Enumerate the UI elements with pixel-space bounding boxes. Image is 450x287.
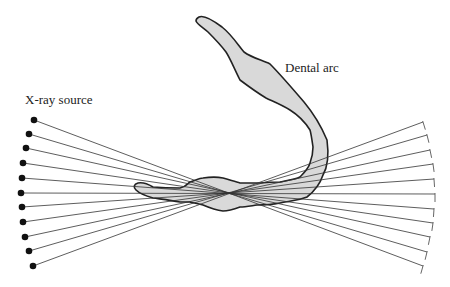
detector-segment <box>428 236 430 245</box>
x-ray-source-dot <box>19 175 26 182</box>
x-ray-source-dot <box>23 145 30 152</box>
x-ray-source-dot <box>22 234 29 241</box>
x-ray-source-dot <box>30 263 37 270</box>
dental-panoramic-diagram: X-ray source Dental arc <box>0 0 450 287</box>
x-ray-source-label: X-ray source <box>25 93 93 106</box>
detector-segment <box>434 178 435 187</box>
detector-segment <box>427 134 429 143</box>
x-ray-source-dot <box>31 117 38 124</box>
detector-segment <box>432 222 433 231</box>
detector-segment <box>423 121 426 130</box>
diagram-canvas <box>0 0 450 287</box>
detector-segment <box>433 163 434 172</box>
dental-arc-shape <box>134 16 328 211</box>
detector-segment <box>421 265 423 274</box>
x-ray-source-dot <box>26 248 33 255</box>
x-ray-beams <box>21 120 435 266</box>
x-ray-source-dot <box>26 131 33 138</box>
x-ray-source-dot <box>20 219 27 226</box>
dental-arc-label: Dental arc <box>285 61 339 74</box>
detector-segment <box>430 149 432 158</box>
detector-segment <box>425 251 427 260</box>
detector-segment <box>433 208 434 217</box>
x-ray-source-dot <box>18 190 25 197</box>
x-ray-source-dot <box>19 204 26 211</box>
x-ray-source-dot <box>20 160 27 167</box>
